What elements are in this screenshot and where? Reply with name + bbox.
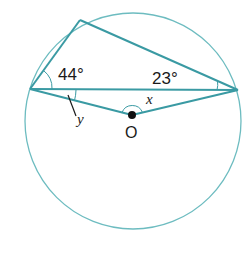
- circle-diagram: 44° 23° x y O: [0, 0, 244, 270]
- angle-arc-23: [217, 81, 218, 90]
- angle-label-y: y: [75, 111, 84, 127]
- chord-left-right: [30, 89, 238, 90]
- center-label-o: O: [125, 124, 137, 141]
- angle-label-23: 23°: [152, 69, 178, 88]
- center-point: [128, 111, 136, 119]
- angle-label-44: 44°: [58, 65, 84, 84]
- circle: [25, 13, 241, 229]
- angle-arc-44: [44, 71, 53, 90]
- angle-label-x: x: [145, 91, 153, 107]
- angle-arc-y: [75, 90, 77, 101]
